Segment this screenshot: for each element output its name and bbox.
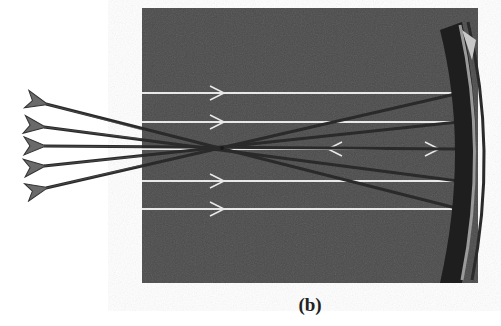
figure-caption: (b) xyxy=(290,294,330,316)
focal-point xyxy=(220,146,224,150)
concave-mirror-diagram xyxy=(0,0,501,326)
